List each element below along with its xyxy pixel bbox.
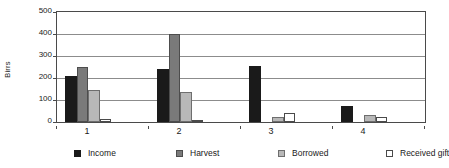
chart-legend: IncomeHarvestBorrowedReceived gift <box>56 146 436 162</box>
x-axis-tickmark <box>148 126 149 129</box>
y-axis-tickmark <box>53 12 57 13</box>
y-axis-tickmark <box>53 34 57 35</box>
y-axis-tickmark <box>53 122 57 123</box>
legend-swatch-harvest <box>176 150 183 157</box>
legend-swatch-borrowed <box>278 150 285 157</box>
bar-borrowed-3[interactable] <box>272 117 284 123</box>
y-axis-tick-label: 500 <box>39 7 52 15</box>
y-axis-tick-label: 0 <box>48 117 52 125</box>
bar-income-3[interactable] <box>249 66 261 122</box>
bar-income-1[interactable] <box>65 76 77 122</box>
legend-label-borrowed: Borrowed <box>292 148 328 158</box>
legend-label-receivedgift: Received gift <box>400 148 449 158</box>
y-axis-title-text: Birrs <box>3 61 12 77</box>
legend-item-receivedgift[interactable]: Received gift <box>386 146 449 160</box>
plot-area <box>56 11 426 123</box>
bar-group <box>341 12 387 122</box>
bar-income-2[interactable] <box>157 69 169 122</box>
legend-swatch-income <box>74 150 81 157</box>
x-axis-tickmark <box>240 126 241 129</box>
bar-receivedgift-4[interactable] <box>376 117 388 122</box>
bar-receivedgift-1[interactable] <box>100 119 112 122</box>
x-axis-tick-label: 4 <box>360 126 365 137</box>
bar-income-4[interactable] <box>341 106 353 122</box>
x-axis-tick-labels: 1234 <box>56 126 424 140</box>
y-axis-tickmark <box>53 56 57 57</box>
bar-harvest-2[interactable] <box>169 34 181 122</box>
x-axis-tick-label: 1 <box>84 126 89 137</box>
y-axis-tick-label: 200 <box>39 73 52 81</box>
y-axis-tick-label: 400 <box>39 29 52 37</box>
y-axis-tickmark <box>53 100 57 101</box>
y-axis-tickmark <box>53 78 57 79</box>
bar-borrowed-4[interactable] <box>364 115 376 122</box>
bar-receivedgift-2[interactable] <box>192 120 204 122</box>
bars-layer <box>57 12 425 122</box>
x-axis-tick-label: 2 <box>176 126 181 137</box>
legend-item-income[interactable]: Income <box>74 146 116 160</box>
x-axis-tickmark <box>332 126 333 129</box>
bar-borrowed-2[interactable] <box>180 92 192 122</box>
bar-group <box>249 12 295 122</box>
x-axis-tick-label: 3 <box>268 126 273 137</box>
legend-swatch-receivedgift <box>386 150 393 157</box>
x-axis-tickmark <box>56 126 57 129</box>
bar-receivedgift-3[interactable] <box>284 113 296 122</box>
y-axis-tick-label: 300 <box>39 51 52 59</box>
legend-label-harvest: Harvest <box>190 148 219 158</box>
legend-label-income: Income <box>88 148 116 158</box>
y-axis-tick-labels: 0100200300400500 <box>18 6 56 126</box>
y-axis-title: Birrs <box>0 44 14 94</box>
bar-harvest-1[interactable] <box>77 67 89 122</box>
bar-borrowed-1[interactable] <box>88 90 100 122</box>
y-axis-tick-label: 100 <box>39 95 52 103</box>
legend-item-harvest[interactable]: Harvest <box>176 146 219 160</box>
bar-group <box>65 12 111 122</box>
bar-group <box>157 12 203 122</box>
legend-item-borrowed[interactable]: Borrowed <box>278 146 328 160</box>
x-axis-tickmark <box>424 126 425 129</box>
